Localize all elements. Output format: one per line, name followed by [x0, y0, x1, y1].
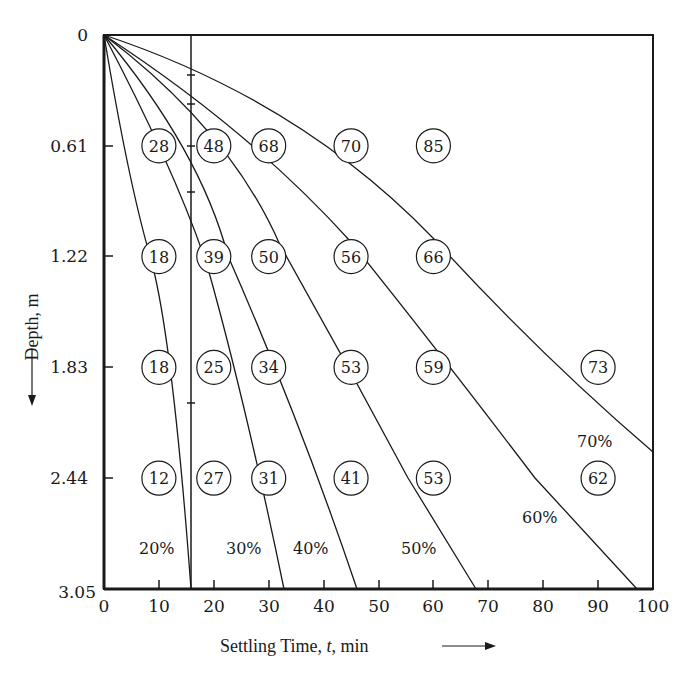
svg-text:0: 0: [99, 596, 110, 616]
observation-circle: 31: [252, 461, 286, 495]
curve-30: [104, 35, 284, 589]
svg-text:20: 20: [203, 596, 225, 616]
svg-text:2.44: 2.44: [50, 468, 88, 488]
observation-circle: 28: [142, 129, 176, 163]
observation-circle: 18: [142, 350, 176, 384]
svg-text:1.83: 1.83: [50, 357, 88, 377]
x-tick-labels: 0 10 20 30 40 50 60 70 80 90 100: [99, 596, 670, 616]
observation-circle: 59: [416, 350, 450, 384]
svg-text:53: 53: [341, 358, 361, 377]
svg-text:50: 50: [368, 596, 390, 616]
observation-circle: 25: [197, 350, 231, 384]
svg-text:80: 80: [532, 596, 554, 616]
observation-circle: 56: [334, 240, 368, 274]
observation-circle: 53: [416, 461, 450, 495]
svg-text:18: 18: [149, 248, 169, 267]
settling-chart: 0 0.61 1.22 1.83 2.44 3.05 0 10 20 30 40…: [0, 0, 699, 679]
svg-text:34: 34: [259, 358, 279, 377]
svg-text:20%: 20%: [139, 539, 175, 558]
observation-circle: 73: [581, 350, 615, 384]
y-tick-labels: 0 0.61 1.22 1.83 2.44 3.05: [50, 25, 96, 602]
svg-text:100: 100: [637, 596, 669, 616]
svg-text:50: 50: [259, 248, 279, 267]
observation-circle: 62: [581, 461, 615, 495]
svg-text:48: 48: [204, 137, 224, 156]
observation-circles: 2848687085183950566618253453597312273141…: [142, 129, 615, 495]
observation-circle: 12: [142, 461, 176, 495]
svg-text:3.05: 3.05: [58, 582, 96, 602]
iso-removal-curves: [104, 35, 653, 589]
svg-text:59: 59: [423, 358, 443, 377]
svg-text:0.61: 0.61: [50, 136, 88, 156]
svg-text:70: 70: [477, 596, 499, 616]
observation-circle: 27: [197, 461, 231, 495]
svg-text:62: 62: [588, 469, 608, 488]
svg-text:68: 68: [259, 137, 279, 156]
reference-line: [187, 35, 195, 589]
svg-text:56: 56: [341, 248, 361, 267]
svg-text:18: 18: [149, 358, 169, 377]
curve-20: [104, 35, 191, 589]
svg-text:60: 60: [422, 596, 444, 616]
svg-text:41: 41: [341, 469, 361, 488]
x-axis-title: Settling Time, t, min: [220, 636, 496, 656]
svg-text:90: 90: [587, 596, 609, 616]
svg-text:27: 27: [204, 469, 224, 488]
svg-text:1.22: 1.22: [50, 246, 88, 266]
svg-text:Settling Time, t, min: Settling Time, t, min: [220, 636, 369, 656]
y-axis-title: Depth, m: [22, 294, 42, 407]
observation-circle: 41: [334, 461, 368, 495]
curve-70: [104, 35, 653, 452]
observation-circle: 68: [252, 129, 286, 163]
svg-text:39: 39: [204, 248, 224, 267]
svg-text:66: 66: [423, 248, 443, 267]
svg-text:70: 70: [341, 137, 361, 156]
observation-circle: 39: [197, 240, 231, 274]
curve-50: [104, 35, 476, 589]
svg-text:28: 28: [149, 137, 169, 156]
plot-frame: [104, 35, 653, 589]
svg-text:10: 10: [148, 596, 170, 616]
svg-text:73: 73: [588, 358, 608, 377]
svg-text:0: 0: [77, 25, 88, 45]
svg-text:70%: 70%: [577, 432, 613, 451]
observation-circle: 85: [416, 129, 450, 163]
svg-text:40%: 40%: [293, 539, 329, 558]
observation-circle: 18: [142, 240, 176, 274]
svg-text:60%: 60%: [522, 508, 558, 527]
observation-circle: 34: [252, 350, 286, 384]
observation-circle: 50: [252, 240, 286, 274]
svg-text:30%: 30%: [226, 539, 262, 558]
observation-circle: 66: [416, 240, 450, 274]
svg-text:31: 31: [259, 469, 279, 488]
observation-circle: 53: [334, 350, 368, 384]
observation-circle: 48: [197, 129, 231, 163]
svg-text:30: 30: [258, 596, 280, 616]
svg-text:12: 12: [149, 469, 169, 488]
svg-text:25: 25: [204, 358, 224, 377]
svg-text:85: 85: [423, 137, 443, 156]
svg-text:50%: 50%: [401, 539, 437, 558]
svg-text:40: 40: [313, 596, 335, 616]
curve-40: [104, 35, 357, 589]
observation-circle: 70: [334, 129, 368, 163]
svg-text:53: 53: [423, 469, 443, 488]
